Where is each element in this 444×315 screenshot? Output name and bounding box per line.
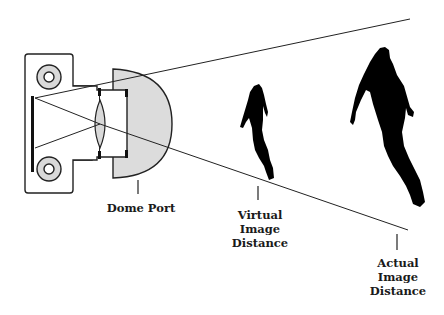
port-seal-bottom xyxy=(125,150,128,158)
ray-upper xyxy=(35,19,410,98)
actual-line1: Actual xyxy=(363,256,433,270)
virtual-line1: Virtual xyxy=(225,208,295,222)
port-seal-top xyxy=(125,89,128,97)
virtual-line2: Image xyxy=(225,222,295,236)
actual-line2: Image xyxy=(363,270,433,284)
virtual-line3: Distance xyxy=(225,236,295,250)
actual-image-distance-label: Actual Image Distance xyxy=(363,256,433,298)
actual-line3: Distance xyxy=(363,284,433,298)
dome-port-text: Dome Port xyxy=(105,201,177,215)
lens-mount-bottom xyxy=(98,151,101,159)
film-plane xyxy=(31,96,34,172)
virtual-diver-silhouette xyxy=(240,84,274,180)
lens-mount-top xyxy=(98,88,101,96)
top-spool-icon xyxy=(37,65,61,89)
actual-diver-silhouette xyxy=(350,47,425,207)
bottom-spool-icon xyxy=(37,157,61,181)
virtual-image-distance-label: Virtual Image Distance xyxy=(225,208,295,250)
dome-port-label: Dome Port xyxy=(105,201,177,215)
